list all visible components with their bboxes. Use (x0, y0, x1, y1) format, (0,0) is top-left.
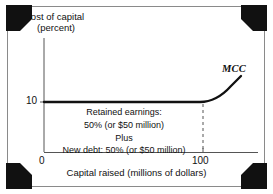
figure-container: Cost of capital (percent) Capital raised… (0, 0, 273, 194)
note-line-1: Retained earnings: (44, 106, 204, 119)
mcc-curve (44, 76, 241, 102)
note-line-3: Plus (44, 132, 204, 145)
note-line-4: New debt: 50% (or $50 million) (44, 144, 204, 157)
y-axis-title-line2: (percent) (24, 23, 84, 34)
y-axis-title: Cost of capital (percent) (24, 12, 84, 34)
x-axis-title: Capital raised (millions of dollars) (0, 168, 273, 179)
note-line-2: 50% (or $50 million) (44, 119, 204, 132)
capital-structure-note: Retained earnings: 50% (or $50 million) … (44, 106, 204, 157)
y-tick-label-10: 10 (26, 95, 37, 107)
mcc-series-label: MCC (222, 63, 246, 75)
y-axis-title-line1: Cost of capital (24, 11, 84, 22)
